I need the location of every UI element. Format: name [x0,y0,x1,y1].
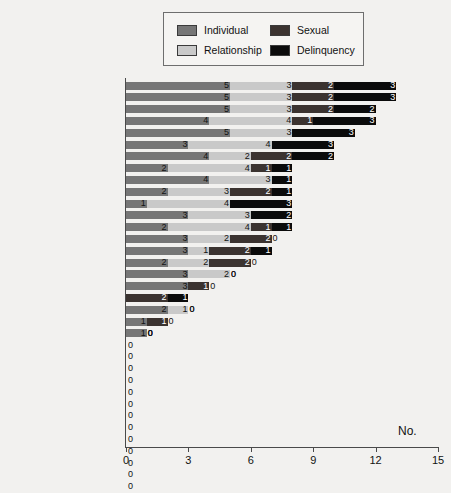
x-tick-15 [438,447,439,452]
bar-segment-value: 1 [286,222,291,233]
bar-segment-value: 3 [182,245,187,256]
bar-segment-value: 3 [370,115,375,126]
bar-segment-relationship: 4 [168,164,251,172]
bar-segment-individual: 2 [126,164,168,172]
bar-value-zero: 0 [128,446,133,457]
stacked-bar: 5323 [126,93,396,101]
bar-segment-sexual: 2 [251,152,293,160]
bar-segment-value: 0 [231,269,236,280]
bar-segment-delinquency: 3 [292,129,354,137]
bar-segment-delinquency: 3 [313,117,375,125]
bar-segment-individual: 3 [126,141,188,149]
bar-value-zero: 0 [128,351,133,362]
bar-value-zero: 0 [128,481,133,492]
bar-segment-value: 2 [245,151,250,162]
bar-segment-value: 3 [182,210,187,221]
x-tick-label-15: 15 [423,454,451,466]
bar-segment-value: 2 [328,92,333,103]
stacked-bar: 2411 [126,223,292,231]
x-tick-label-12: 12 [361,454,391,466]
legend-item-sexual: Sexual [270,25,329,36]
legend-label-sexual: Sexual [297,25,329,36]
bar-segment-relationship: 3 [168,188,230,196]
bar-segment-value: 1 [162,316,167,327]
bar-segment-value: 2 [245,257,250,268]
legend-label-delinquency: Delinquency [297,45,355,56]
bar-segment-relationship: 2 [188,235,230,243]
bar-segment-sexual: 2 [230,188,272,196]
bar-segment-relationship: 3 [230,82,292,90]
plot-area: 03691215 Denmark5323Isle of Man5323Finla… [126,79,438,447]
bar-value-zero: 0 [128,410,133,421]
bar-segment-relationship: 3 [209,176,271,184]
bar-segment-value: 0 [210,281,215,292]
stacked-bar: 3302 [126,211,292,219]
bar-segment-value: 1 [203,245,208,256]
stacked-bar: 3220 [126,235,272,243]
stacked-bar: 0021 [126,294,188,302]
bar-segment-value: 4 [286,115,291,126]
legend-swatch-relationship [177,45,197,56]
bar-segment-relationship: 2 [168,259,210,267]
bar-segment-value: 3 [349,127,354,138]
bar-segment-relationship: 1 [188,247,209,255]
bar-segment-relationship: 3 [230,105,292,113]
bar-segment-value: 2 [286,151,291,162]
bar-segment-value: 5 [224,127,229,138]
x-tick-3 [188,447,189,452]
bar-segment-value: 1 [141,316,146,327]
bar-segment-value: 4 [224,198,229,209]
bar-segment-value: 4 [266,139,271,150]
bar-segment-value: 3 [286,92,291,103]
bar-segment-value: 2 [224,233,229,244]
bar-segment-sexual: 1 [251,223,272,231]
bar-segment-value: 3 [182,139,187,150]
bar-segment-value: 1 [266,222,271,233]
bar-value-zero: 0 [128,434,133,445]
bar-segment-sexual: 2 [230,235,272,243]
bar-segment-value: 0 [252,257,257,268]
bar-segment-value: 0 [169,316,174,327]
bar-segment-relationship: 4 [168,223,251,231]
x-tick-9 [313,447,314,452]
bar-segment-value: 4 [245,222,250,233]
x-tick-0 [126,447,127,452]
bar-segment-value: 3 [182,269,187,280]
bar-segment-value: 1 [182,304,187,315]
bar-segment-relationship: 3 [230,93,292,101]
x-tick-label-9: 9 [298,454,328,466]
legend-swatch-sexual [270,25,290,36]
legend-item-relationship: Relationship [177,45,270,56]
bar-segment-value: 2 [162,304,167,315]
bar-segment-value: 2 [370,104,375,115]
legend-label-relationship: Relationship [204,45,262,56]
bar-segment-individual: 4 [126,176,209,184]
bar-segment-value: 3 [286,80,291,91]
bar-segment-value: 1 [286,163,291,174]
bar-segment-value: 1 [266,163,271,174]
bar-segment-value: 2 [266,233,271,244]
bar-segment-individual: 2 [126,306,168,314]
bar-segment-value: 4 [203,151,208,162]
bar-segment-relationship: 2 [209,152,251,160]
bar-segment-value: 3 [182,281,187,292]
bar-segment-value: 2 [162,222,167,233]
bar-segment-individual: 3 [126,235,188,243]
bar-segment-value: 1 [182,292,187,303]
stacked-bar: 5322 [126,105,376,113]
bar-segment-delinquency: 3 [230,200,292,208]
bar-segment-value: 2 [162,257,167,268]
bar-segment-sexual: 2 [292,82,334,90]
bar-segment-value: 3 [224,186,229,197]
stacked-bar: 1000 [126,329,147,337]
bar-segment-delinquency: 1 [251,247,272,255]
bar-segment-relationship: 4 [147,200,230,208]
stacked-bar: 4301 [126,176,292,184]
bar-segment-sexual: 2 [209,259,251,267]
bar-segment-value: 2 [328,80,333,91]
bar-segment-value: 1 [266,245,271,256]
bar-segment-delinquency: 3 [334,93,396,101]
bar-segment-individual: 3 [126,282,188,290]
legend-item-individual: Individual [177,25,270,36]
bar-segment-individual: 1 [126,329,147,337]
